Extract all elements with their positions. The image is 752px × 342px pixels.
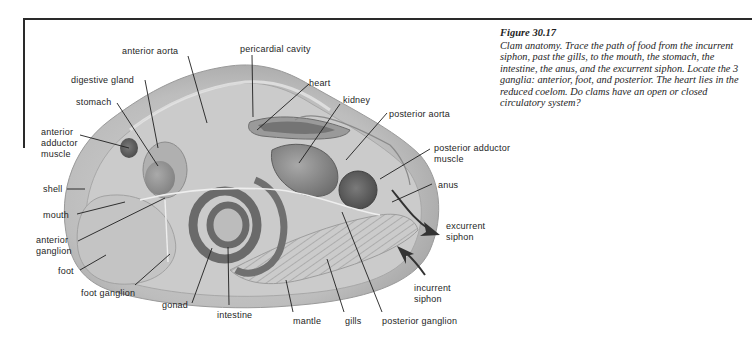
label-mouth: mouth xyxy=(43,210,69,221)
figure-caption-text: Clam anatomy. Trace the path of food fro… xyxy=(500,40,750,108)
label-heart: heart xyxy=(309,78,331,89)
label-gills: gills xyxy=(345,316,362,327)
label-anterior-adductor-muscle: anterior adductor muscle xyxy=(41,127,78,160)
label-anus: anus xyxy=(438,180,458,191)
label-anterior-ganglion: anterior ganglion xyxy=(36,235,72,257)
label-gonad: gonad xyxy=(162,300,188,311)
label-foot: foot xyxy=(58,266,74,277)
label-incurrent-siphon: incurrent siphon xyxy=(414,283,451,305)
label-shell: shell xyxy=(43,184,63,195)
posterior-adductor-muscle xyxy=(339,171,377,209)
stomach xyxy=(145,161,175,195)
label-stomach: stomach xyxy=(76,97,111,108)
label-anterior-aorta: anterior aorta xyxy=(122,46,178,57)
label-posterior-aorta: posterior aorta xyxy=(389,109,450,120)
label-posterior-ganglion: posterior ganglion xyxy=(382,316,457,327)
label-pericardial-cavity: pericardial cavity xyxy=(240,44,311,55)
label-foot-ganglion: foot ganglion xyxy=(81,288,135,299)
label-intestine: intestine xyxy=(217,310,252,321)
figure-caption: Figure 30.17 Clam anatomy. Trace the pat… xyxy=(500,27,750,108)
label-excurrent-siphon: excurrent siphon xyxy=(446,221,485,243)
figure-number: Figure 30.17 xyxy=(500,27,750,38)
label-posterior-adductor-muscle: posterior adductor muscle xyxy=(434,143,510,165)
label-kidney: kidney xyxy=(343,95,370,106)
label-mantle: mantle xyxy=(293,316,321,327)
label-digestive-gland: digestive gland xyxy=(71,75,134,86)
